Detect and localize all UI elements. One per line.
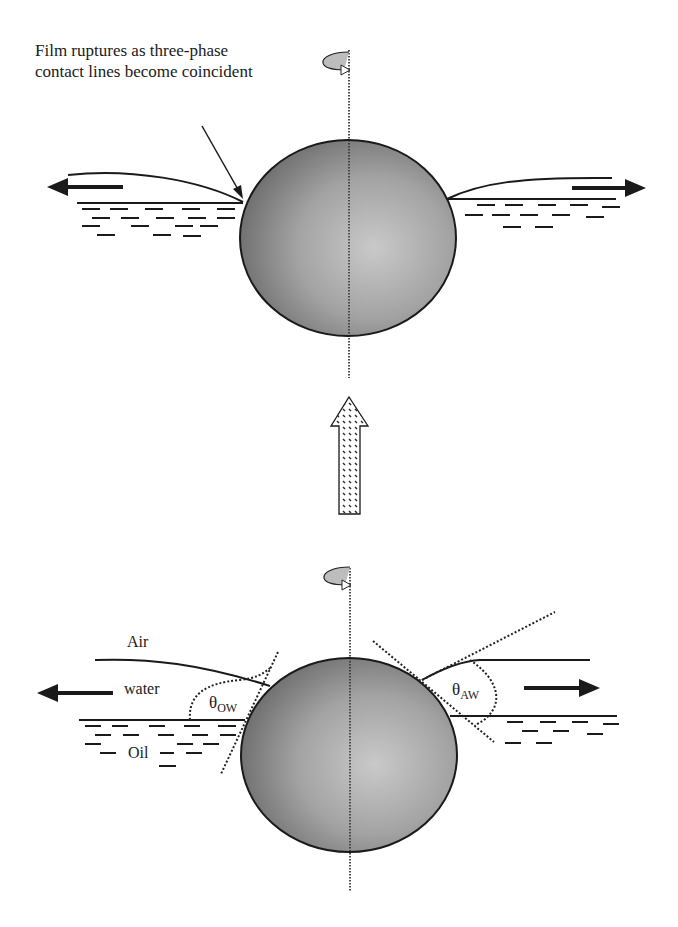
theta-aw-subscript: AW (460, 688, 479, 702)
diagram-canvas (0, 0, 678, 927)
right-arrow-icon (572, 179, 646, 197)
water-label: water (124, 680, 160, 698)
particle-sphere-bottom (241, 658, 457, 852)
particle-film-rupture-diagram: Film ruptures as three-phase contact lin… (0, 0, 678, 927)
top-panel (47, 50, 646, 378)
theta-aw-label: θAW (452, 680, 479, 703)
theta-aw-symbol: θ (452, 680, 460, 699)
left-arrow-icon (47, 178, 123, 196)
oil-label: Oil (128, 744, 148, 762)
right-arrow-icon (524, 679, 600, 697)
rupture-annotation: Film ruptures as three-phase contact lin… (35, 40, 255, 82)
rotation-arrow-icon (324, 567, 351, 590)
rotation-arrow-icon (323, 52, 350, 75)
bottom-panel (37, 567, 619, 892)
left-oil-film-top (68, 173, 243, 236)
hatched-up-arrow-icon (331, 397, 368, 514)
right-oil-film-top (447, 178, 620, 227)
air-label: Air (127, 633, 148, 651)
left-arrow-icon (37, 684, 113, 702)
particle-sphere-top (240, 140, 456, 336)
theta-ow-subscript: OW (217, 701, 237, 715)
theta-ow-label: θOW (209, 693, 237, 716)
theta-ow-symbol: θ (209, 693, 217, 712)
